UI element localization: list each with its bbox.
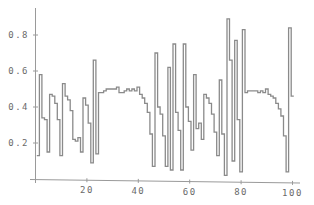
y-tick-label: 0.8	[8, 30, 29, 40]
y-tick-label: 0.2	[8, 138, 29, 148]
x-tick-label: 40	[131, 186, 145, 196]
data-series-line	[37, 19, 294, 176]
step-line-chart: 0.20.40.60.8 20406080100	[0, 0, 314, 205]
y-tick-label: 0.6	[8, 66, 29, 76]
x-tick-label: 100	[282, 188, 303, 198]
y-tick-label: 0.4	[8, 102, 29, 112]
x-axis: 20406080100	[30, 178, 303, 198]
x-tick-label: 60	[183, 187, 197, 197]
y-axis: 0.20.40.60.8	[8, 8, 38, 183]
x-tick-label: 80	[234, 187, 248, 197]
x-tick-label: 20	[80, 185, 94, 195]
